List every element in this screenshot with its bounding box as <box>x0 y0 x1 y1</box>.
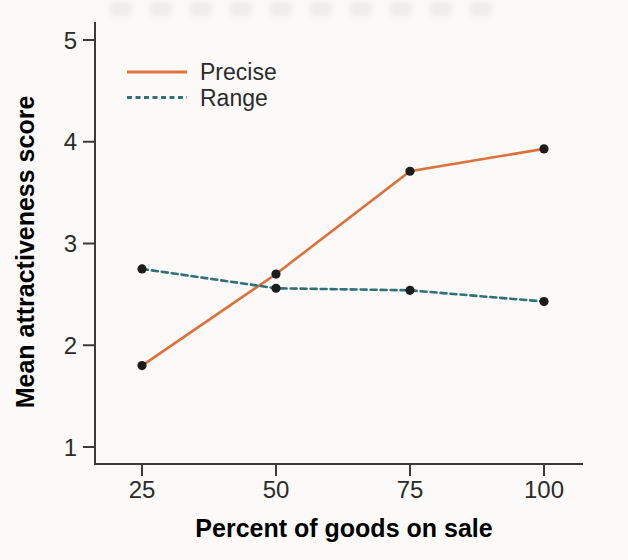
y-tick-label: 3 <box>64 230 77 257</box>
x-tick-label: 100 <box>524 476 564 503</box>
x-axis-title: Percent of goods on sale <box>195 514 492 542</box>
legend-label-range: Range <box>200 85 268 111</box>
y-tick-label: 1 <box>64 434 77 461</box>
data-point-range <box>137 264 146 273</box>
data-point-precise <box>271 269 280 278</box>
data-point-precise <box>539 144 548 153</box>
data-point-range <box>405 286 414 295</box>
legend-label-precise: Precise <box>200 59 277 85</box>
y-axis-title: Mean attractiveness score <box>11 96 39 409</box>
y-tick-label: 5 <box>64 27 77 54</box>
data-point-range <box>539 297 548 306</box>
data-point-precise <box>137 361 146 370</box>
x-tick-label: 25 <box>129 476 156 503</box>
data-point-range <box>271 284 280 293</box>
line-chart: 12345255075100PreciseRange Percent of go… <box>0 0 628 560</box>
x-tick-label: 50 <box>263 476 290 503</box>
y-tick-label: 2 <box>64 332 77 359</box>
plot-area: 12345255075100PreciseRange <box>64 22 583 503</box>
x-tick-label: 75 <box>397 476 424 503</box>
series-line-precise <box>142 149 544 366</box>
series-line-range <box>142 269 544 302</box>
data-point-precise <box>405 167 414 176</box>
scanned-chart-page: 12345255075100PreciseRange Percent of go… <box>0 0 628 560</box>
y-tick-label: 4 <box>64 128 77 155</box>
